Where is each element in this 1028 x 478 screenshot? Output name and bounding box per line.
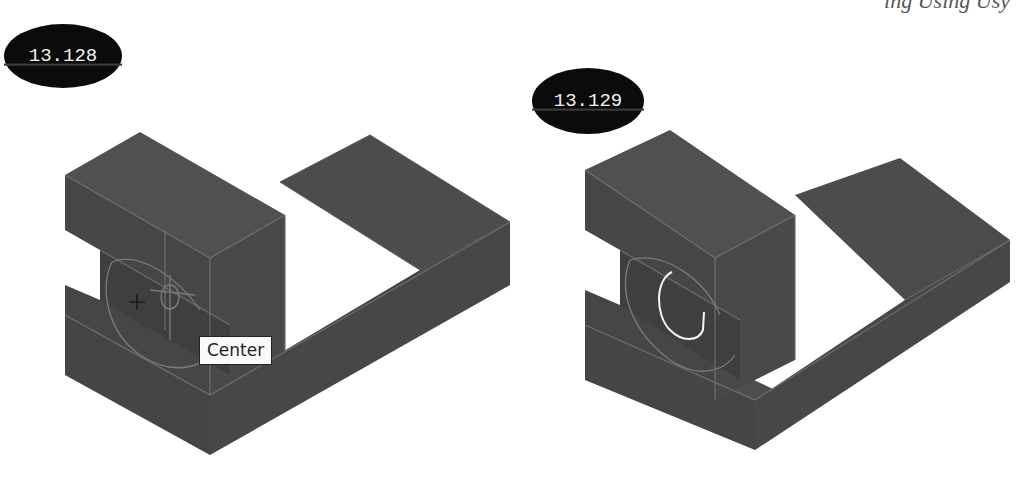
cad-viewport-right[interactable]: [520, 0, 1028, 478]
isometric-block-model: [0, 0, 520, 478]
osnap-tooltip: Center: [199, 336, 272, 365]
isometric-block-model: [520, 0, 1028, 478]
cad-viewport-left[interactable]: [0, 0, 520, 478]
